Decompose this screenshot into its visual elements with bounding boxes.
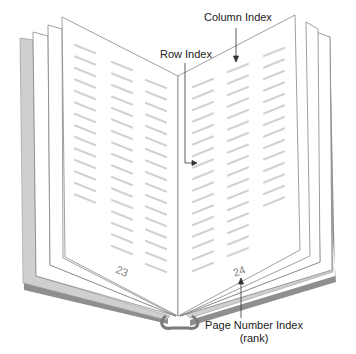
page-number-index-title: Page Number Index [198, 319, 310, 332]
page-number-index-subtitle: (rank) [198, 332, 310, 345]
left-page-stack [33, 17, 178, 316]
column-index-label: Column Index [204, 11, 272, 24]
row-index-label: Row Index [160, 48, 212, 61]
page-number-index-label: Page Number Index (rank) [198, 319, 310, 345]
